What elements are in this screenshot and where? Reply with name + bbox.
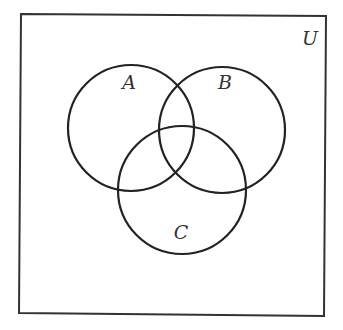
universe-boundary	[19, 14, 326, 316]
venn-diagram: U A B C	[0, 0, 343, 330]
universe-label: U	[302, 27, 319, 49]
set-a-label: A	[120, 71, 136, 93]
set-b-label: B	[217, 71, 232, 93]
set-c-label: C	[174, 221, 189, 243]
